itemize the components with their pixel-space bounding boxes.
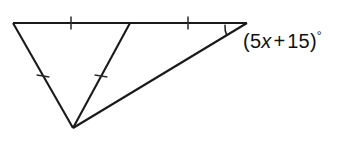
- angle-label-variable: x: [261, 30, 271, 52]
- geometry-canvas: [0, 0, 345, 143]
- geometry-figure: (5x+15)°: [0, 0, 345, 143]
- angle-label-open-paren: (: [243, 30, 250, 52]
- angle-label-coefficient: 5: [250, 30, 261, 52]
- tick-cevian-icon: [95, 75, 108, 77]
- angle-arc-icon: [225, 25, 227, 35]
- angle-label: (5x+15)°: [243, 29, 322, 53]
- angle-label-constant: 15: [287, 30, 310, 52]
- angle-label-close-paren: ): [310, 30, 317, 52]
- angle-label-operator: +: [271, 30, 287, 52]
- tick-left-leg-icon: [37, 75, 50, 77]
- degree-symbol-icon: °: [317, 29, 322, 43]
